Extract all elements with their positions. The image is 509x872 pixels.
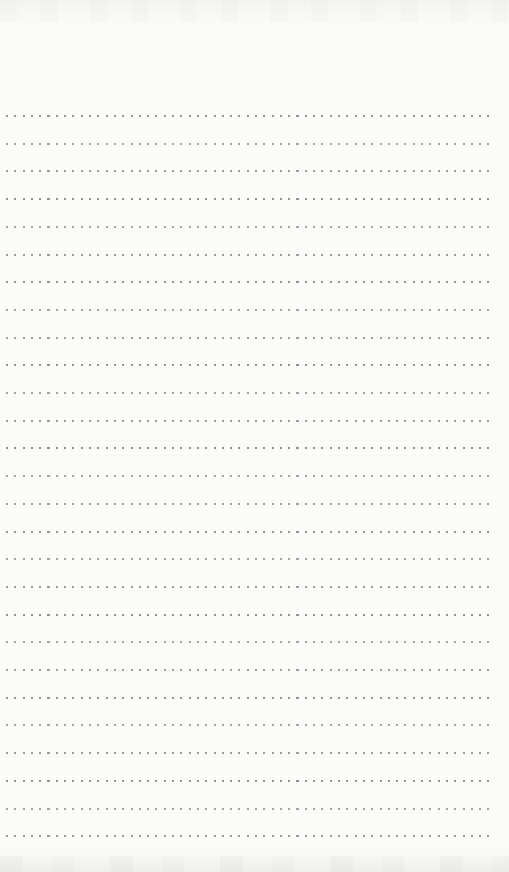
dotted-line: [6, 641, 492, 643]
notepad-page: [0, 0, 509, 872]
dotted-line: [6, 170, 492, 172]
dotted-line: [6, 669, 492, 671]
dotted-lines-container: [0, 0, 509, 872]
dotted-line: [6, 364, 492, 366]
dotted-line: [6, 475, 492, 477]
dotted-line: [6, 420, 492, 422]
dotted-line: [6, 337, 492, 339]
dotted-line: [6, 531, 492, 533]
dotted-line: [6, 226, 492, 228]
dotted-line: [6, 392, 492, 394]
dotted-line: [6, 558, 492, 560]
dotted-line: [6, 115, 492, 117]
dotted-line: [6, 752, 492, 754]
dotted-line: [6, 143, 492, 145]
dotted-line: [6, 835, 492, 837]
dotted-line: [6, 614, 492, 616]
dotted-line: [6, 281, 492, 283]
dotted-line: [6, 198, 492, 200]
dotted-line: [6, 586, 492, 588]
dotted-line: [6, 724, 492, 726]
dotted-line: [6, 254, 492, 256]
dotted-line: [6, 780, 492, 782]
dotted-line: [6, 503, 492, 505]
dotted-line: [6, 447, 492, 449]
scan-edge-bottom: [0, 856, 509, 872]
dotted-line: [6, 808, 492, 810]
dotted-line: [6, 697, 492, 699]
dotted-line: [6, 309, 492, 311]
